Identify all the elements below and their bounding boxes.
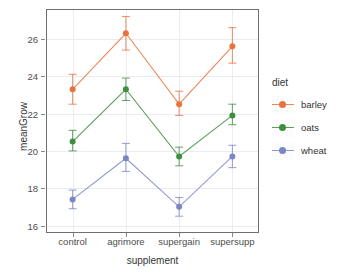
x-axis-tick-label: supersupp bbox=[210, 236, 254, 247]
gridline-horizontal bbox=[47, 226, 258, 227]
x-axis-tick-mark bbox=[126, 233, 127, 237]
x-axis-tick-mark bbox=[232, 233, 233, 237]
legend-item-label: wheat bbox=[301, 145, 326, 156]
legend: diet barleyoatswheat bbox=[272, 77, 342, 162]
x-axis-tick-mark bbox=[179, 233, 180, 237]
x-axis-title: supplement bbox=[46, 255, 259, 266]
legend-item-label: barley bbox=[301, 99, 327, 110]
y-axis-tick-label: 18 bbox=[12, 183, 38, 194]
y-axis-tick-mark bbox=[41, 76, 45, 77]
x-axis-tick-label: supergain bbox=[158, 236, 200, 247]
gridline-horizontal bbox=[47, 188, 258, 189]
gridline-vertical bbox=[126, 10, 127, 232]
y-axis-tick-mark bbox=[41, 188, 45, 189]
x-axis-tick-mark bbox=[73, 233, 74, 237]
y-axis-tick-label: 16 bbox=[12, 220, 38, 231]
chart-figure: meanGrow supplement diet barleyoatswheat… bbox=[0, 0, 344, 277]
legend-item-barley[interactable]: barley bbox=[272, 93, 342, 116]
gridline-horizontal bbox=[47, 114, 258, 115]
gridline-vertical bbox=[232, 10, 233, 232]
gridline-vertical bbox=[73, 10, 74, 232]
y-axis-tick-mark bbox=[41, 39, 45, 40]
plot-panel bbox=[46, 9, 259, 233]
legend-item-label: oats bbox=[301, 122, 319, 133]
legend-key-icon bbox=[272, 96, 294, 114]
x-axis-tick-label: control bbox=[58, 236, 87, 247]
y-axis-title: meanGrow bbox=[18, 82, 29, 172]
gridline-vertical bbox=[179, 10, 180, 232]
y-axis-tick-mark bbox=[41, 114, 45, 115]
legend-key-icon bbox=[272, 119, 294, 137]
y-axis-tick-mark bbox=[41, 151, 45, 152]
y-axis-tick-mark bbox=[41, 226, 45, 227]
gridline-horizontal bbox=[47, 76, 258, 77]
legend-item-wheat[interactable]: wheat bbox=[272, 139, 342, 162]
gridline-horizontal bbox=[47, 151, 258, 152]
y-axis-tick-label: 26 bbox=[12, 33, 38, 44]
x-axis-tick-label: agrimore bbox=[107, 236, 145, 247]
y-axis-tick-label: 22 bbox=[12, 108, 38, 119]
gridline-horizontal bbox=[47, 39, 258, 40]
legend-key-icon bbox=[272, 142, 294, 160]
legend-item-oats[interactable]: oats bbox=[272, 116, 342, 139]
legend-title: diet bbox=[272, 77, 342, 88]
y-axis-tick-label: 20 bbox=[12, 145, 38, 156]
y-axis-tick-label: 24 bbox=[12, 71, 38, 82]
legend-items: barleyoatswheat bbox=[272, 93, 342, 162]
